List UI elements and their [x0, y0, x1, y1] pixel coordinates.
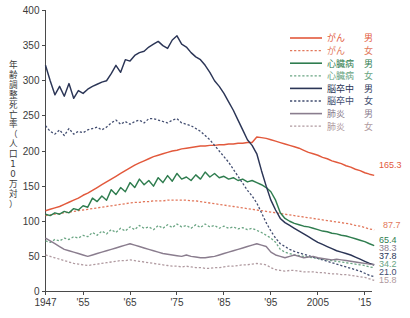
y-axis-title-char: （ — [9, 129, 18, 139]
y-tick-label: 300 — [23, 75, 40, 86]
series-line-stroke-female — [46, 119, 375, 277]
legend-label-disease-cancer-male: がん — [327, 32, 345, 43]
line-chart: 050100150200250300350400 1947'55'65'75'8… — [0, 0, 410, 318]
y-axis-title-char: 0 — [10, 169, 15, 179]
end-value-label-cancer-female: 87.7 — [383, 220, 401, 230]
y-axis-title-char: 調 — [9, 79, 18, 90]
series-line-stroke-male — [46, 36, 375, 265]
y-tick-label: 200 — [23, 146, 40, 157]
x-tick-label: '55 — [77, 297, 90, 308]
x-tick-label: '75 — [170, 297, 183, 308]
chart-legend: がん男がん女心臓病男心臓病女脳卒中男脳卒中女肺炎男肺炎女 — [290, 32, 373, 131]
data-series-group — [46, 36, 375, 281]
y-axis-title-char: 率 — [9, 118, 18, 129]
legend-label-sex-heart-female: 女 — [364, 70, 373, 81]
legend-label-sex-cancer-female: 女 — [364, 45, 373, 56]
legend-label-disease-cancer-female: がん — [327, 45, 345, 56]
legend-label-disease-heart-female: 心臓病 — [327, 70, 354, 81]
y-axis-title-char: 亡 — [9, 109, 18, 120]
x-axis: 1947'55'65'75'85'952005'15 — [34, 292, 371, 308]
x-tick-label: 1947 — [34, 297, 57, 308]
y-tick-label: 50 — [28, 251, 40, 262]
y-axis-title-char: 1 — [10, 159, 15, 169]
y-axis-title-char: 対 — [9, 188, 18, 199]
series-line-cancer-female — [46, 200, 375, 230]
legend-label-sex-pneumonia-male: 男 — [364, 109, 373, 119]
x-tick-label: '85 — [217, 297, 230, 308]
y-axis-title-char: ） — [9, 199, 18, 209]
legend-label-sex-cancer-male: 男 — [364, 33, 373, 43]
y-axis-title: 年齢調整死亡率（人口10万対） — [9, 59, 18, 209]
legend-label-disease-heart-male: 心臓病 — [327, 58, 354, 69]
y-axis-title-char: 口 — [9, 149, 18, 159]
x-tick-label: 2005 — [307, 297, 330, 308]
y-tick-label: 400 — [23, 5, 40, 16]
y-tick-label: 100 — [23, 216, 40, 227]
y-tick-label: 0 — [34, 286, 40, 297]
end-value-label-pneumonia-female: 15.8 — [379, 275, 397, 285]
chart-container: 050100150200250300350400 1947'55'65'75'8… — [0, 0, 410, 318]
legend-label-sex-pneumonia-female: 女 — [364, 121, 373, 132]
y-axis-title-char: 整 — [9, 89, 18, 100]
legend-label-disease-stroke-male: 脳卒中 — [327, 83, 354, 94]
x-tick-label: '65 — [123, 297, 136, 308]
y-axis-title-char: 人 — [9, 139, 18, 149]
y-tick-label: 150 — [23, 181, 40, 192]
legend-label-disease-pneumonia-male: 肺炎 — [327, 109, 345, 119]
y-axis-title-char: 死 — [9, 100, 18, 110]
end-value-label-cancer-male: 165.3 — [379, 160, 402, 170]
x-tick-label: '95 — [264, 297, 277, 308]
legend-label-sex-heart-male: 男 — [364, 59, 373, 69]
y-tick-label: 250 — [23, 110, 40, 121]
y-axis-title-char: 年 — [9, 59, 18, 70]
legend-label-sex-stroke-female: 女 — [364, 95, 373, 106]
y-tick-label: 350 — [23, 40, 40, 51]
x-tick-label: '15 — [358, 297, 371, 308]
legend-label-disease-pneumonia-female: 肺炎 — [327, 122, 345, 132]
legend-label-sex-stroke-male: 男 — [364, 84, 373, 94]
y-axis: 050100150200250300350400 — [23, 5, 46, 297]
y-axis-title-char: 齢 — [9, 69, 18, 80]
y-axis-title-char: 万 — [9, 179, 18, 189]
end-value-labels: 165.387.765.438.337.834.221.015.8 — [379, 160, 402, 285]
legend-label-disease-stroke-female: 脳卒中 — [327, 95, 354, 106]
